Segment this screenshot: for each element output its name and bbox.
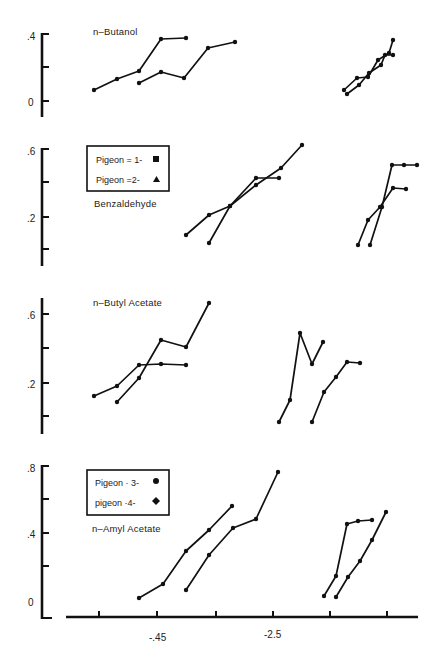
data-point (231, 526, 235, 530)
data-point (366, 218, 370, 222)
data-series-line (358, 188, 406, 245)
data-point (184, 588, 188, 592)
data-point (310, 362, 314, 366)
data-point (184, 36, 188, 40)
panel-n-amyl-acetate: .8 .4 0 Pigeon · 3- pigeon ·4- n–Amyl Ac… (27, 463, 388, 619)
data-series-line (94, 364, 186, 396)
data-series-line (324, 520, 372, 596)
data-point (92, 394, 96, 398)
data-point (182, 76, 186, 80)
x-tick-label: -2.5 (264, 629, 282, 640)
data-point (230, 504, 234, 508)
data-point (184, 363, 188, 367)
legend-label-pigeon-2: Pigeon =2- (96, 175, 140, 185)
data-point (300, 143, 304, 147)
data-point (137, 69, 141, 73)
data-series-line (279, 333, 323, 422)
data-point (380, 205, 384, 209)
data-series-line (139, 42, 235, 83)
data-point (228, 204, 232, 208)
plot-area (92, 36, 395, 96)
x-tick-label: -.45 (149, 632, 167, 643)
data-series-line (336, 512, 386, 597)
data-point (345, 92, 349, 96)
data-point (254, 183, 258, 187)
y-tick-label: .6 (27, 310, 36, 321)
data-series-line (186, 472, 278, 590)
data-point (334, 574, 338, 578)
data-series-line (312, 362, 360, 422)
data-point (137, 596, 141, 600)
data-point (342, 88, 346, 92)
data-point (233, 40, 237, 44)
panel-title: Benzaldehyde (94, 198, 157, 209)
plot-area (92, 301, 362, 424)
data-point (254, 517, 258, 521)
data-point (346, 575, 350, 579)
data-point (345, 360, 349, 364)
data-point (254, 176, 258, 180)
square-marker-icon (153, 156, 159, 162)
panel-title: n–Butanol (93, 26, 138, 37)
data-point (404, 187, 408, 191)
data-point (184, 233, 188, 237)
y-tick-label: .2 (27, 379, 36, 390)
data-point (322, 594, 326, 598)
data-point (370, 538, 374, 542)
legend-label-pigeon-3: Pigeon · 3- (95, 478, 139, 488)
panel-title: n–Butyl Acetate (93, 297, 162, 308)
legend-pigeons-3-4: Pigeon · 3- pigeon ·4- (87, 470, 169, 515)
data-point (92, 88, 96, 92)
data-point (207, 301, 211, 305)
data-point (370, 518, 374, 522)
legend-label-pigeon-1: Pigeon = 1- (96, 155, 142, 165)
data-point (356, 243, 360, 247)
data-point (334, 595, 338, 599)
data-point (415, 163, 419, 167)
data-point (288, 398, 292, 402)
data-point (137, 376, 141, 380)
panel-title: n–Amyl Acetate (92, 523, 161, 534)
y-tick-label: 0 (28, 97, 34, 108)
data-point (207, 241, 211, 245)
panel-n-butyl-acetate: .6 .2 n–Butyl Acetate (27, 297, 362, 434)
data-point (321, 340, 325, 344)
data-point (379, 63, 383, 67)
plot-area (137, 470, 388, 600)
data-point (390, 163, 394, 167)
data-point (391, 53, 395, 57)
y-tick-label: .2 (27, 213, 36, 224)
data-point (159, 37, 163, 41)
data-series-line (117, 303, 209, 402)
y-tick-label: 0 (28, 597, 34, 608)
data-point (391, 38, 395, 42)
panel-benzaldehyde: .6 .2 Pigeon = 1- Pigeon =2- Benzaldehyd… (27, 143, 419, 266)
plot-area (184, 143, 419, 247)
data-point (161, 582, 165, 586)
data-point (298, 331, 302, 335)
data-point (376, 58, 380, 62)
data-point (137, 81, 141, 85)
data-point (345, 522, 349, 526)
data-point (355, 76, 359, 80)
data-point (277, 176, 281, 180)
data-point (115, 400, 119, 404)
y-tick-label: .8 (27, 463, 36, 474)
data-point (402, 163, 406, 167)
data-point (368, 243, 372, 247)
data-point (279, 166, 283, 170)
y-tick-label: .6 (27, 146, 36, 157)
data-point (356, 519, 360, 523)
data-point (276, 470, 280, 474)
data-point (184, 549, 188, 553)
figure: .4 0 n–Butanol .6 .2 Pigeon = 1- Pigeon … (0, 0, 435, 665)
data-point (206, 46, 210, 50)
data-point (159, 70, 163, 74)
data-point (159, 362, 163, 366)
data-point (391, 186, 395, 190)
data-point (310, 420, 314, 424)
legend-label-pigeon-4: pigeon ·4- (95, 498, 136, 508)
data-point (384, 510, 388, 514)
legend-pigeons-1-2: Pigeon = 1- Pigeon =2- (87, 146, 169, 191)
data-point (383, 53, 387, 57)
